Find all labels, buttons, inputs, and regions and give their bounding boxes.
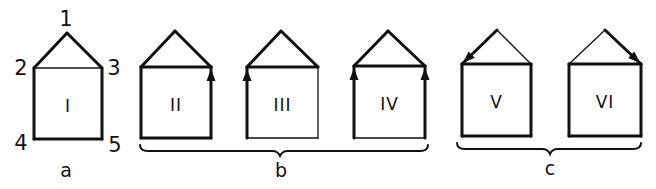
vertex-label-1: 1 bbox=[59, 9, 72, 30]
house-iv-edge-roofR bbox=[388, 31, 425, 66]
house-i-edge-roofR bbox=[67, 33, 102, 68]
arrow-up-icon bbox=[421, 68, 430, 80]
house-iii-edge-roofL bbox=[247, 31, 281, 67]
vertex-label-4: 4 bbox=[14, 133, 27, 154]
group-label-a: a bbox=[60, 161, 72, 180]
house-ii-edge-roofL bbox=[141, 31, 175, 67]
group-label-b: b bbox=[275, 161, 287, 180]
vertex-label-2: 2 bbox=[14, 58, 27, 79]
house-iv-edge-roofL bbox=[354, 31, 388, 66]
arrow-up-icon bbox=[350, 68, 359, 80]
house-label-iii: III bbox=[273, 96, 291, 113]
house-v-edge-roofR bbox=[497, 30, 531, 64]
house-label-i: I bbox=[65, 97, 71, 114]
house-label-ii: II bbox=[170, 96, 182, 113]
house-label-v: V bbox=[490, 94, 503, 111]
house-iii-edge-roofR bbox=[281, 31, 318, 67]
house-label-vi: VI bbox=[596, 94, 615, 111]
group-label-c: c bbox=[545, 159, 555, 178]
vertex-label-5: 5 bbox=[108, 135, 121, 156]
house-label-iv: IV bbox=[380, 96, 399, 113]
brace-group-c bbox=[457, 143, 641, 154]
house-ii-edge-roofR bbox=[175, 31, 211, 67]
house-i-edge-roofL bbox=[34, 33, 67, 68]
house-graph-diagram bbox=[0, 0, 656, 189]
vertex-label-3: 3 bbox=[107, 58, 120, 79]
house-vi-edge-roofL bbox=[569, 30, 605, 64]
arrow-up-icon bbox=[243, 69, 252, 81]
arrow-up-icon bbox=[207, 69, 216, 81]
brace-group-b bbox=[140, 145, 428, 156]
